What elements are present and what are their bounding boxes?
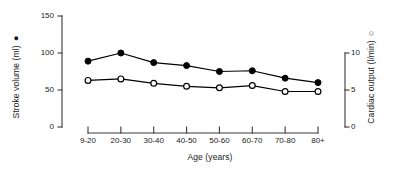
tick-label: 10 [351, 48, 381, 57]
tick-label: 80+ [298, 136, 338, 145]
x-axis [88, 127, 318, 133]
tick-label: 5 [351, 85, 381, 94]
tick-label: 100 [24, 48, 54, 57]
left-axis-title-text: Stroke volume (ml) [11, 45, 21, 118]
left-axis-title: Stroke volume (ml) ● [11, 17, 21, 137]
open-circle-legend-icon: ○ [366, 30, 376, 36]
right-axis [345, 53, 349, 127]
tick-label: 0 [351, 122, 381, 131]
x-axis-title: Age (years) [120, 152, 300, 162]
filled-circle-legend-icon: ● [11, 35, 21, 41]
tick-label: 50 [24, 85, 54, 94]
tick-label: 0 [24, 122, 54, 131]
left-axis [58, 16, 62, 127]
data-series-group [85, 50, 321, 94]
figure: Stroke volume (ml) ● Cardiac output (l/m… [0, 0, 400, 179]
tick-label: 150 [24, 11, 54, 20]
